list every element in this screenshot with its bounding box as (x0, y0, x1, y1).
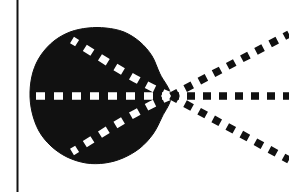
figure-root: Convergent dashed rays meeting at a cusp… (0, 0, 289, 192)
figure-canvas (0, 0, 289, 192)
